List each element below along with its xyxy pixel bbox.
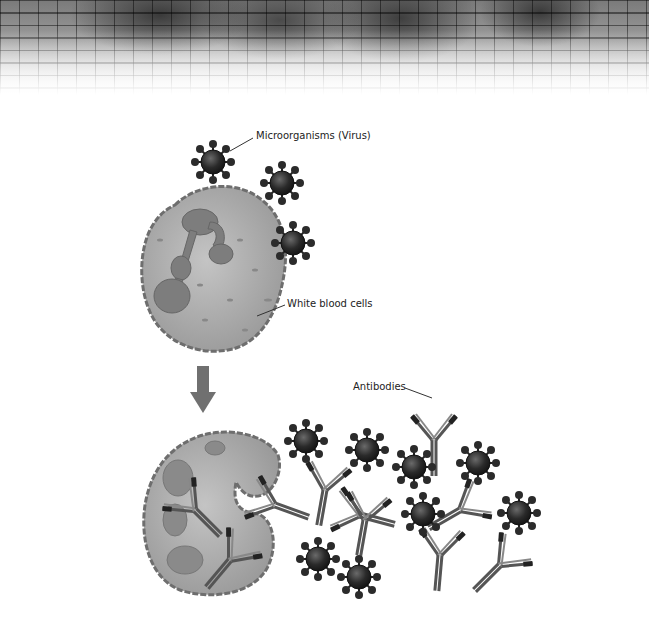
antibody — [415, 527, 464, 593]
leader-line-virus — [230, 138, 253, 151]
down-arrow-icon — [190, 366, 216, 413]
virus — [456, 441, 500, 485]
virus — [345, 428, 389, 472]
immune-response-diagram — [0, 0, 649, 638]
virus — [401, 492, 445, 536]
label-microorganisms: Microorganisms (Virus) — [256, 130, 371, 141]
label-antibodies: Antibodies — [353, 381, 406, 392]
label-white-blood-cells: White blood cells — [287, 298, 373, 309]
virus — [191, 140, 235, 184]
antibody — [459, 531, 534, 606]
virus — [284, 419, 328, 463]
leader-line-antibody — [405, 388, 432, 398]
virus — [497, 491, 541, 535]
virus — [260, 161, 304, 205]
white-blood-cell — [142, 186, 286, 351]
virus — [271, 221, 315, 265]
virus — [296, 537, 340, 581]
virus — [392, 445, 436, 489]
virus — [337, 555, 381, 599]
